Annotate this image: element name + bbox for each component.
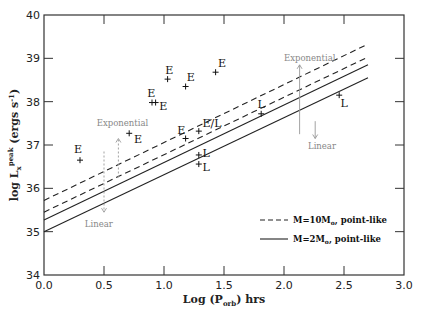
legend: M=10Mo, point-likeM=2Mo, point-like — [260, 215, 388, 245]
point-label: E — [165, 64, 173, 77]
point-label: E — [159, 100, 167, 113]
x-axis-title: Log (Porb) hrs — [183, 293, 265, 308]
point-label: E — [177, 124, 185, 137]
point-label: E — [218, 57, 226, 70]
data-point: E — [183, 71, 195, 90]
y-tick-label: 34 — [26, 269, 40, 282]
y-tick-label: 37 — [26, 139, 40, 152]
point-label: E — [134, 133, 142, 146]
point-label: L — [202, 161, 210, 174]
annotation-label: Linear — [85, 219, 114, 229]
dashed-model-line — [44, 57, 368, 212]
annotation-label: Exponential — [97, 118, 149, 128]
annotations: ExponentialLinearExponentialLinear — [85, 53, 337, 230]
chart-canvas: 0.00.51.01.52.02.53.0 34353637383940 Exp… — [0, 0, 423, 313]
x-tick-label: 2.5 — [335, 279, 353, 292]
point-label: E — [74, 143, 82, 156]
annotation-label: Linear — [308, 141, 337, 151]
y-axis-title: log Lxpeak (ergs s-1) — [6, 89, 23, 201]
y-tick-label: 35 — [26, 226, 40, 239]
data-point: E — [165, 64, 174, 83]
data-point: L — [196, 161, 211, 174]
y-tick-label: 38 — [26, 96, 40, 109]
point-label: L — [258, 98, 266, 111]
annotation-label: Exponential — [284, 53, 336, 63]
point-label: L — [340, 97, 348, 110]
y-tick-label: 39 — [26, 52, 40, 65]
x-tick-label: 0.5 — [95, 279, 113, 292]
data-point: L — [196, 147, 211, 160]
x-tick-label: 2.0 — [275, 279, 293, 292]
y-tick-label: 36 — [26, 182, 40, 195]
data-points: EEEEEEEEE/LLLLL — [74, 57, 348, 174]
point-label: E — [187, 71, 195, 84]
data-point: E — [126, 130, 142, 145]
model-lines — [44, 44, 368, 232]
data-point: E — [74, 143, 83, 163]
y-tick-labels: 34353637383940 — [26, 9, 40, 282]
data-point: E — [213, 57, 226, 76]
point-label: E — [147, 87, 155, 100]
data-point: E — [153, 100, 168, 113]
point-label: E/L — [202, 117, 222, 130]
x-tick-label: 1.5 — [215, 279, 233, 292]
point-label: L — [202, 147, 210, 160]
x-tick-labels: 0.00.51.01.52.02.53.0 — [35, 279, 413, 292]
legend-label: M=10Mo, point-like — [293, 215, 388, 226]
x-tick-label: 3.0 — [395, 279, 413, 292]
legend-label: M=2Mo, point-like — [293, 234, 382, 245]
data-point: E — [177, 124, 188, 142]
x-tick-label: 1.0 — [155, 279, 173, 292]
y-tick-label: 40 — [26, 9, 40, 22]
data-point: L — [336, 92, 348, 110]
